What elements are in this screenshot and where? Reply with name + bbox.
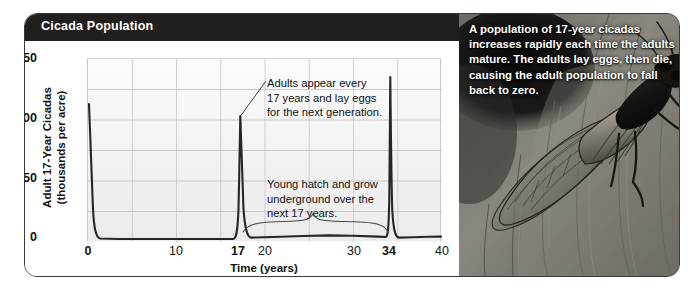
chart-title: Cicada Population [41,19,153,33]
x-tick-40: 40 [425,244,459,258]
chart-title-bar: Cicada Population [25,14,459,41]
x-axis-label: Time (years) [87,262,441,274]
figure-card: Cicada Population Adult 17-Year Cicadas … [24,13,680,277]
y-axis-label: Adult 17-Year Cicadas (thousands per acr… [41,63,68,233]
photo-panel: A population of 17-year cicadas increase… [459,14,680,276]
x-tick-30: 30 [337,244,371,258]
y-tick-150: 150 [24,51,37,65]
photo-caption: A population of 17-year cicadas increase… [469,22,675,98]
x-tick-34: 34 [372,244,406,258]
cicada-population-figure: Cicada Population Adult 17-Year Cicadas … [0,0,694,289]
y-axis-label-line2: (thousands per acre) [54,63,68,233]
x-tick-20: 20 [248,244,282,258]
annotation-leader-line [241,81,267,116]
y-tick-50: 50 [24,171,37,185]
chart-panel: Cicada Population Adult 17-Year Cicadas … [25,14,459,276]
x-tick-10: 10 [159,244,193,258]
y-tick-100: 100 [24,111,37,125]
x-tick-0: 0 [71,244,105,258]
y-axis-label-line1: Adult 17-Year Cicadas [41,63,55,233]
annotation-adults-appear: Adults appear every 17 years and lay egg… [267,76,427,120]
y-tick-0: 0 [24,230,37,244]
annotation-young-hatch: Young hatch and grow underground over th… [267,177,417,221]
